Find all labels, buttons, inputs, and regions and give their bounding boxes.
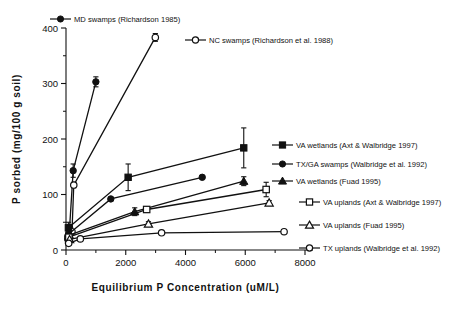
x-tick-label: 0 <box>63 257 68 268</box>
marker-filled-circle <box>279 161 285 167</box>
marker-open-circle <box>152 34 158 40</box>
x-tick-label: 4000 <box>175 257 196 268</box>
legend-label: MD swamps (Richardson 1985) <box>74 15 181 24</box>
marker-filled-triangle <box>240 177 248 184</box>
series-line <box>69 190 266 238</box>
series-3 <box>65 174 205 237</box>
marker-open-square <box>263 186 269 192</box>
y-axis-title: P sorbed (mg/100 g soil) <box>11 74 22 204</box>
marker-filled-circle <box>199 174 205 180</box>
marker-filled-circle <box>93 79 99 85</box>
legend-entry-4: VA wetlands (Fuad 1995) <box>272 177 381 186</box>
marker-open-circle <box>65 240 71 246</box>
scatter-plot: 010020030040002000400060008000 MD swamps… <box>0 0 463 310</box>
marker-open-circle <box>306 245 312 251</box>
x-axis-title: Equilibrium P Concentration (uM/L) <box>92 282 280 293</box>
legend-label: TX/GA swamps (Walbridge et al. 1992) <box>296 160 427 169</box>
marker-open-square <box>306 199 312 205</box>
y-tick-label: 400 <box>42 23 58 34</box>
x-tick-label: 2000 <box>115 257 136 268</box>
marker-open-circle <box>71 182 77 188</box>
legend-label: VA uplands (Axt & Walbridge 1997) <box>323 198 442 207</box>
marker-open-circle <box>192 37 198 43</box>
marker-filled-square <box>125 174 131 180</box>
x-tick-label: 6000 <box>235 257 256 268</box>
legend-entry-5: VA uplands (Axt & Walbridge 1997) <box>299 198 442 207</box>
y-tick-label: 0 <box>53 245 58 256</box>
legend-label: VA wetlands (Fuad 1995) <box>296 177 381 186</box>
legend-label: TX uplands (Walbridge et al. 1992) <box>323 244 441 253</box>
legend-label: VA uplands (Fuad 1995) <box>323 221 405 230</box>
legend-label: NC swamps (Richardson et al. 1988) <box>209 36 334 45</box>
series-7 <box>65 228 287 246</box>
marker-filled-circle <box>108 196 114 202</box>
marker-open-circle <box>281 228 287 234</box>
marker-filled-square <box>241 145 247 151</box>
legend-entry-7: TX uplands (Walbridge et al. 1992) <box>299 244 441 253</box>
data-series-layer <box>65 34 288 247</box>
series-0 <box>65 77 99 239</box>
x-tick-label: 8000 <box>294 257 315 268</box>
marker-open-triangle <box>265 199 273 206</box>
series-2 <box>65 128 247 233</box>
marker-filled-circle <box>70 167 76 173</box>
legend-entry-6: VA uplands (Fuad 1995) <box>299 221 405 230</box>
legend-entry-1: NC swamps (Richardson et al. 1988) <box>185 36 334 45</box>
series-line <box>68 82 96 236</box>
legend-entry-2: VA wetlands (Axt & Walbridge 1997) <box>272 141 418 150</box>
marker-open-circle <box>77 236 83 242</box>
marker-open-circle <box>158 230 164 236</box>
marker-open-square <box>143 206 149 212</box>
legend-entry-0: MD swamps (Richardson 1985) <box>50 15 181 24</box>
marker-filled-square <box>279 142 285 148</box>
series-line <box>69 177 203 234</box>
y-tick-label: 100 <box>42 189 58 200</box>
marker-filled-square <box>65 225 71 231</box>
legend: MD swamps (Richardson 1985)NC swamps (Ri… <box>50 15 442 253</box>
legend-entry-3: TX/GA swamps (Walbridge et al. 1992) <box>272 160 427 169</box>
y-tick-label: 200 <box>42 134 58 145</box>
legend-label: VA wetlands (Axt & Walbridge 1997) <box>296 141 418 150</box>
chart-page: 010020030040002000400060008000 MD swamps… <box>0 0 463 310</box>
marker-filled-circle <box>57 16 63 22</box>
y-tick-label: 300 <box>42 78 58 89</box>
